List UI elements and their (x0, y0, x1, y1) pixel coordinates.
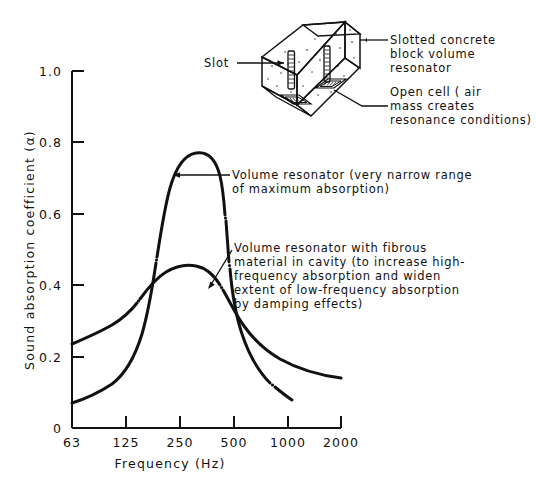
slot-left (288, 51, 295, 89)
callout-slot-arrowhead (278, 60, 285, 65)
curve-volume-resonator-seg2 (157, 153, 225, 257)
curve-break-dot-fr-1 (137, 299, 140, 302)
annotation-fibrous-resonator-line3: frequency absorption and widen (234, 269, 441, 283)
annotation-fibrous-resonator-line1: Volume resonator with fibrous (234, 241, 427, 255)
y-axis-title: Sound absorption coefficient (α) (22, 130, 37, 370)
curve-break-dot-vr-1 (155, 258, 158, 261)
curve-break-dot-vr-4 (271, 383, 274, 386)
curve-break-dot-vr-2 (224, 216, 227, 219)
y-tick-label-06: 0.6 (39, 207, 62, 222)
callout-open-cell-label-line1: Open cell ( air (390, 85, 481, 99)
x-tick-label-250: 250 (167, 435, 194, 450)
y-tick-label-08: 0.8 (39, 135, 62, 150)
block-top-face (303, 22, 360, 36)
curve-fibrous-seg1 (72, 303, 137, 344)
callout-block-label-line2: block volume (390, 47, 475, 61)
x-axis-title: Frequency (Hz) (114, 456, 225, 471)
callout-open-cell-label-line3: resonance conditions) (390, 113, 532, 127)
annotation-fibrous-resonator-line2: material in cavity (to increase high- (234, 255, 465, 269)
annotation-volume-resonator-line2: of maximum absorption) (232, 182, 390, 196)
x-tick-label-125: 125 (113, 435, 140, 450)
callout-block-label-line3: resonator (390, 61, 452, 75)
callout-slot: Slot (204, 56, 284, 70)
callout-open-cell: Open cell ( air mass creates resonance c… (334, 85, 532, 127)
annotation-fibrous-resonator-line4: extent of low-frequency absorption (234, 283, 460, 297)
callout-block-label-line1: Slotted concrete (390, 33, 496, 47)
callout-open-cell-label-line2: mass creates (390, 99, 475, 113)
x-tick-label-1000: 1000 (270, 435, 306, 450)
block-right-face (345, 22, 360, 68)
y-axis-ticks (72, 71, 84, 428)
curve-break-dot-fr-2 (220, 286, 223, 289)
slotted-concrete-block-illustration: Slot Slotted concrete block volume reson… (204, 22, 532, 127)
y-tick-label-1: 1.0 (39, 64, 62, 79)
annotation-fibrous-resonator: Volume resonator with fibrous material i… (208, 241, 465, 311)
callout-slot-label: Slot (204, 56, 229, 70)
x-tick-label-500: 500 (221, 435, 248, 450)
sound-absorption-chart-svg: Slot Slotted concrete block volume reson… (0, 0, 536, 496)
open-cell-right (316, 79, 346, 88)
annotation-fibrous-resonator-arrowhead (208, 282, 215, 290)
y-tick-label-04: 0.4 (39, 278, 62, 293)
curve-volume-resonator-seg5 (275, 387, 292, 400)
curve-break-dot-vr-3 (228, 264, 231, 267)
curve-volume-resonator-seg1 (72, 263, 156, 403)
x-axis-ticks (72, 416, 341, 428)
y-tick-label-02: 0.2 (39, 350, 62, 365)
figure-root: Slot Slotted concrete block volume reson… (0, 0, 536, 496)
y-tick-label-0: 0 (53, 421, 62, 436)
annotation-fibrous-resonator-line5: by damping effects) (234, 297, 363, 311)
callout-block: Slotted concrete block volume resonator (360, 33, 496, 75)
annotation-volume-resonator-line1: Volume resonator (very narrow range (232, 168, 472, 182)
x-tick-label-63: 63 (63, 435, 81, 450)
callout-open-cell-leader (334, 90, 388, 106)
x-tick-label-2000: 2000 (323, 435, 359, 450)
